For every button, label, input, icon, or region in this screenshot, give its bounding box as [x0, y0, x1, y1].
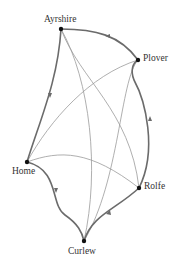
- node-ayrshire: [59, 27, 63, 31]
- edge-ayrshire-curlew: [61, 29, 92, 241]
- node-label-plover: Plover: [143, 53, 168, 63]
- node-label-ayrshire: Ayrshire: [44, 14, 76, 24]
- node-curlew: [82, 239, 86, 243]
- node-label-curlew: Curlew: [68, 246, 96, 256]
- edge-ayrshire-home: [27, 29, 61, 162]
- node-home: [25, 160, 29, 164]
- node-label-rolfe: Rolfe: [144, 181, 165, 191]
- edge-plover-curlew: [84, 60, 138, 241]
- node-rolfe: [137, 186, 141, 190]
- edge-plover-ayrshire: [61, 29, 138, 60]
- node-plover: [136, 58, 140, 62]
- edge-ayrshire-rolfe: [61, 29, 139, 188]
- node-label-home: Home: [12, 166, 35, 176]
- edge-rolfe-plover: [132, 60, 149, 188]
- arrow-icon: [148, 116, 152, 121]
- edge-home-curlew: [27, 162, 84, 241]
- edge-curlew-rolfe: [84, 188, 139, 241]
- graph-canvas: [0, 0, 180, 267]
